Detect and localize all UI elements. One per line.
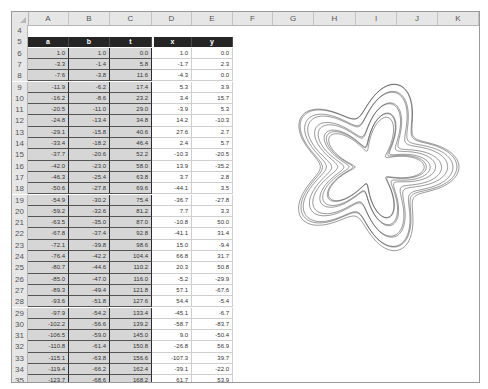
- cell-y[interactable]: 50.0: [192, 217, 233, 228]
- cell-b[interactable]: -35.0: [69, 217, 110, 228]
- row-header[interactable]: 24: [12, 251, 28, 262]
- row-header[interactable]: 19: [12, 195, 28, 206]
- cell-t[interactable]: 29.0: [110, 104, 152, 115]
- cell-x[interactable]: 3.7: [152, 172, 192, 183]
- row-header[interactable]: 17: [12, 172, 28, 183]
- cell-y[interactable]: 3.9: [192, 82, 233, 93]
- cell-t[interactable]: 162.4: [110, 364, 152, 375]
- cell-a[interactable]: -11.9: [28, 82, 69, 93]
- cell-t[interactable]: 139.2: [110, 319, 152, 330]
- cell-x[interactable]: -10.3: [152, 149, 192, 160]
- cell-b[interactable]: -20.6: [69, 149, 110, 160]
- cell-a[interactable]: -89.3: [28, 285, 69, 296]
- cell-y[interactable]: 31.7: [192, 251, 233, 262]
- cell-b[interactable]: -66.2: [69, 364, 110, 375]
- row-header[interactable]: 16: [12, 161, 28, 172]
- cell-y[interactable]: 0.0: [192, 70, 233, 81]
- cell-b[interactable]: -27.8: [69, 183, 110, 194]
- cell-x[interactable]: 2.4: [152, 138, 192, 149]
- cell-a[interactable]: -37.7: [28, 149, 69, 160]
- cell-y[interactable]: -6.7: [192, 308, 233, 319]
- cell-y[interactable]: 2.3: [192, 59, 233, 70]
- cell-t[interactable]: 104.4: [110, 251, 152, 262]
- column-header-a[interactable]: A: [28, 12, 69, 25]
- row-header[interactable]: 10: [12, 93, 28, 104]
- cell-t[interactable]: 133.4: [110, 308, 152, 319]
- cell-y[interactable]: -22.0: [192, 364, 233, 375]
- cell-b[interactable]: -42.2: [69, 251, 110, 262]
- cell-y[interactable]: 50.8: [192, 262, 233, 273]
- cell-b[interactable]: -37.4: [69, 228, 110, 239]
- row-header[interactable]: 32: [12, 341, 28, 352]
- header-cell-x[interactable]: x: [154, 37, 192, 47]
- column-header-c[interactable]: C: [110, 12, 152, 25]
- cell-t[interactable]: 116.0: [110, 274, 152, 285]
- cell-b[interactable]: -68.6: [69, 375, 110, 383]
- row-header[interactable]: 26: [12, 274, 28, 285]
- cell-t[interactable]: 87.0: [110, 217, 152, 228]
- cell-a[interactable]: -50.6: [28, 183, 69, 194]
- cell-a[interactable]: -110.8: [28, 341, 69, 352]
- row-header[interactable]: 28: [12, 296, 28, 307]
- cell-y[interactable]: 0.0: [192, 48, 233, 59]
- row-header[interactable]: 9: [12, 82, 28, 93]
- row-header[interactable]: 22: [12, 228, 28, 239]
- cell-x[interactable]: 57.1: [152, 285, 192, 296]
- cell-x[interactable]: -3.9: [152, 104, 192, 115]
- header-cell-y[interactable]: y: [192, 37, 233, 47]
- cell-y[interactable]: 15.7: [192, 93, 233, 104]
- cell-t[interactable]: 0.0: [110, 48, 152, 59]
- row-header[interactable]: 23: [12, 240, 28, 251]
- cell-a[interactable]: -106.5: [28, 330, 69, 341]
- cell-x[interactable]: -44.1: [152, 183, 192, 194]
- cell-y[interactable]: 2.8: [192, 172, 233, 183]
- cell-x[interactable]: 7.7: [152, 206, 192, 217]
- cell-y[interactable]: 5.7: [192, 138, 233, 149]
- cell-a[interactable]: -46.3: [28, 172, 69, 183]
- cell-y[interactable]: -67.6: [192, 285, 233, 296]
- cell-x[interactable]: -5.2: [152, 274, 192, 285]
- cell-b[interactable]: -11.0: [69, 104, 110, 115]
- cell-a[interactable]: -76.4: [28, 251, 69, 262]
- cell-t[interactable]: 75.4: [110, 195, 152, 206]
- cell-t[interactable]: 46.4: [110, 138, 152, 149]
- cell-x[interactable]: -36.7: [152, 195, 192, 206]
- column-header-g[interactable]: G: [273, 12, 314, 25]
- cell-b[interactable]: -18.2: [69, 138, 110, 149]
- row-header[interactable]: 30: [12, 319, 28, 330]
- cell-t[interactable]: 81.2: [110, 206, 152, 217]
- cell-x[interactable]: 61.7: [152, 375, 192, 383]
- cell-y[interactable]: 5.3: [192, 104, 233, 115]
- cell-a[interactable]: -72.1: [28, 240, 69, 251]
- cell-y[interactable]: 3.5: [192, 183, 233, 194]
- cell-a[interactable]: -33.4: [28, 138, 69, 149]
- cell-b[interactable]: -51.8: [69, 296, 110, 307]
- cell-b[interactable]: -39.8: [69, 240, 110, 251]
- cell-b[interactable]: -32.6: [69, 206, 110, 217]
- cell-a[interactable]: -119.4: [28, 364, 69, 375]
- cell-x[interactable]: 15.0: [152, 240, 192, 251]
- cell-b[interactable]: 1.0: [69, 48, 110, 59]
- cell-a[interactable]: -59.2: [28, 206, 69, 217]
- row-header[interactable]: 13: [12, 127, 28, 138]
- row-header[interactable]: 15: [12, 149, 28, 160]
- cell-a[interactable]: -42.0: [28, 161, 69, 172]
- cell-b[interactable]: -23.0: [69, 161, 110, 172]
- cell-t[interactable]: 121.8: [110, 285, 152, 296]
- cell-x[interactable]: 54.4: [152, 296, 192, 307]
- cell-x[interactable]: -41.1: [152, 228, 192, 239]
- flower-curve-chart[interactable]: [267, 62, 477, 272]
- cell-y[interactable]: -5.4: [192, 296, 233, 307]
- cell-t[interactable]: 17.4: [110, 82, 152, 93]
- column-header-b[interactable]: B: [69, 12, 110, 25]
- row-header[interactable]: 5: [12, 36, 28, 47]
- row-header[interactable]: 12: [12, 115, 28, 126]
- cell-t[interactable]: 156.6: [110, 353, 152, 364]
- cell-a[interactable]: -93.6: [28, 296, 69, 307]
- cell-t[interactable]: 11.6: [110, 70, 152, 81]
- cell-x[interactable]: -4.3: [152, 70, 192, 81]
- cell-x[interactable]: -39.1: [152, 364, 192, 375]
- cell-t[interactable]: 145.0: [110, 330, 152, 341]
- cell-y[interactable]: 39.7: [192, 353, 233, 364]
- row-header[interactable]: 8: [12, 70, 28, 81]
